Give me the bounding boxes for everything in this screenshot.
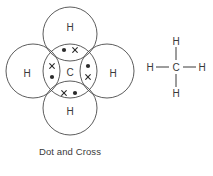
electron-dot: [86, 64, 90, 68]
displayed-formula-diagram: H H C H H: [140, 30, 213, 116]
formula-atom-hydrogen-bottom: H: [172, 88, 179, 99]
atom-label-hydrogen-bottom: H: [66, 106, 73, 117]
shell-circle-hydrogen-top: [43, 7, 97, 61]
atom-label-hydrogen-top: H: [66, 22, 73, 33]
formula-atom-hydrogen-left: H: [146, 62, 153, 73]
dot-and-cross-panel: H H H H C: [0, 0, 140, 176]
displayed-formula-panel: H H C H H Displayed Formula: [140, 0, 213, 176]
methane-bonding-figure: H H H H C: [0, 0, 213, 176]
electron-dot: [50, 75, 54, 79]
electron-cross: [73, 48, 78, 53]
formula-atom-hydrogen-top: H: [172, 36, 179, 47]
electron-cross: [86, 75, 91, 80]
electron-cross: [62, 91, 67, 96]
formula-atom-hydrogen-right: H: [198, 62, 205, 73]
atom-label-hydrogen-left: H: [23, 68, 30, 79]
bond-pair-left: [50, 64, 55, 79]
bond-pair-right: [86, 64, 91, 79]
atom-label-carbon: C: [66, 67, 73, 78]
bond-pair-bottom: [62, 91, 77, 96]
electron-dot: [62, 48, 66, 52]
formula-atom-carbon: C: [172, 62, 179, 73]
shell-circle-hydrogen-left: [6, 44, 60, 98]
atom-label-hydrogen-right: H: [109, 68, 116, 79]
dot-and-cross-diagram: H H H H C: [0, 6, 140, 142]
bond-pair-top: [62, 48, 77, 53]
caption-dot-and-cross: Dot and Cross: [0, 146, 140, 158]
electron-dot: [73, 91, 77, 95]
shell-circle-hydrogen-right: [80, 44, 134, 98]
electron-cross: [50, 64, 55, 69]
